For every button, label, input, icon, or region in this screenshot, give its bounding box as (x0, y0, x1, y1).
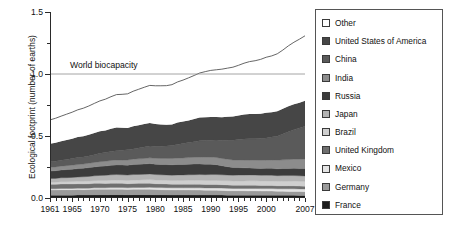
y-tick-label: 1.5 (31, 7, 43, 17)
y-tick-label: 0.0 (31, 193, 43, 203)
x-tick (56, 198, 57, 201)
legend-swatch (322, 37, 330, 45)
x-tick (172, 198, 173, 201)
legend-item-label: Germany (335, 183, 369, 191)
x-tick (294, 198, 295, 201)
x-tick (100, 198, 101, 202)
legend-item-label: Russia (335, 92, 360, 100)
x-tick (216, 198, 217, 201)
x-tick-label: 1990 (201, 204, 220, 214)
legend-swatch (322, 146, 330, 154)
legend-item-label: United States of America (335, 37, 426, 45)
x-tick (111, 198, 112, 201)
x-tick (211, 198, 212, 202)
x-tick (166, 198, 167, 201)
legend-item-label: Japan (335, 110, 358, 118)
x-tick-label: 1985 (173, 204, 192, 214)
x-tick (194, 198, 195, 201)
x-tick-label: 1961 (40, 204, 59, 214)
x-tick (94, 198, 95, 201)
legend-item-label: Mexico (335, 164, 361, 172)
legend-item[interactable]: Other (322, 14, 442, 32)
x-tick (222, 198, 223, 201)
x-tick (227, 198, 228, 201)
x-tick (133, 198, 134, 201)
x-tick (189, 198, 190, 201)
legend-item[interactable]: Japan (322, 105, 442, 123)
legend-item[interactable]: United Kingdom (322, 141, 442, 159)
x-tick (205, 198, 206, 201)
legend-item-label: Other (335, 19, 356, 27)
x-tick (161, 198, 162, 201)
x-tick (288, 198, 289, 201)
x-tick (305, 198, 306, 202)
y-tick-label: 0.5 (31, 131, 43, 141)
x-tick (122, 198, 123, 201)
legend-swatch (322, 92, 330, 100)
x-tick-label: 1975 (118, 204, 137, 214)
legend: OtherUnited States of AmericaChinaIndiaR… (315, 9, 443, 215)
x-tick (139, 198, 140, 201)
y-axis-line (50, 12, 51, 198)
x-tick (105, 198, 106, 201)
legend-item-label: France (335, 201, 361, 209)
x-tick (250, 198, 251, 201)
x-tick (178, 198, 179, 201)
x-tick (78, 198, 79, 201)
legend-swatch (322, 110, 330, 118)
legend-item[interactable]: Germany (322, 178, 442, 196)
legend-item-label: India (335, 74, 353, 82)
x-tick (89, 198, 90, 201)
legend-item-label: Brazil (335, 128, 356, 136)
legend-swatch (322, 55, 330, 63)
legend-item[interactable]: China (322, 50, 442, 68)
x-tick (144, 198, 145, 201)
x-tick (299, 198, 300, 201)
legend-swatch (322, 165, 330, 173)
legend-swatch (322, 19, 330, 27)
x-tick-label: 1970 (90, 204, 109, 214)
x-tick (183, 198, 184, 202)
legend-swatch (322, 183, 330, 191)
x-tick (277, 198, 278, 201)
x-tick-label: 1980 (146, 204, 165, 214)
legend-item[interactable]: Brazil (322, 123, 442, 141)
x-tick-label: 2007 (295, 204, 314, 214)
legend-item-label: China (335, 55, 357, 63)
x-tick (283, 198, 284, 201)
y-tick (45, 74, 50, 75)
x-tick (67, 198, 68, 201)
x-tick (261, 198, 262, 201)
x-tick (155, 198, 156, 202)
legend-swatch (322, 201, 330, 209)
x-tick (266, 198, 267, 202)
legend-item[interactable]: Russia (322, 87, 442, 105)
legend-item[interactable]: United States of America (322, 32, 442, 50)
x-tick (255, 198, 256, 201)
x-tick (150, 198, 151, 201)
x-tick (238, 198, 239, 202)
x-tick-label: 2000 (257, 204, 276, 214)
x-tick (72, 198, 73, 202)
x-tick (83, 198, 84, 201)
legend-item[interactable]: Mexico (322, 160, 442, 178)
legend-swatch (322, 128, 330, 136)
x-tick (233, 198, 234, 201)
chart-figure: Ecological footprint (number of earths) … (0, 0, 450, 240)
y-axis-title: Ecological footprint (number of earths) (27, 17, 37, 197)
legend-item[interactable]: India (322, 69, 442, 87)
x-tick-label: 1965 (63, 204, 82, 214)
x-tick (61, 198, 62, 201)
y-tick (45, 136, 50, 137)
x-tick-label: 1995 (229, 204, 248, 214)
y-tick-minor (47, 105, 50, 106)
x-tick (50, 198, 51, 202)
legend-item-label: United Kingdom (335, 146, 394, 154)
x-tick (244, 198, 245, 201)
x-tick (200, 198, 201, 201)
y-tick-minor (47, 167, 50, 168)
x-tick (128, 198, 129, 202)
legend-item[interactable]: France (322, 196, 442, 214)
world-biocapacity-label: World biocapacity (70, 60, 138, 70)
x-tick (117, 198, 118, 201)
